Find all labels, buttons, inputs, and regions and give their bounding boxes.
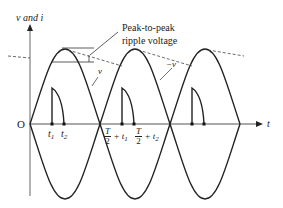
- t1-marker: [51, 123, 54, 126]
- origin-label: O: [17, 119, 25, 130]
- neg-v-leader-line: [160, 68, 172, 80]
- v-leader-line: [92, 77, 98, 86]
- t2-marker: [63, 123, 66, 126]
- ripple-label-line1: Peak-to-peak: [122, 23, 175, 33]
- rectifier-waveform-diagram: v and i O t Peak-to-peak ripple voltage …: [0, 0, 283, 208]
- t1-label: t1: [48, 129, 54, 141]
- y-axis-label: v and i: [16, 13, 43, 23]
- v-curve-label: v: [98, 67, 102, 76]
- neg-v-curve-label: −v: [166, 60, 176, 69]
- current-pulse-3: [192, 88, 204, 124]
- ripple-decay-dashed-1: [8, 56, 30, 58]
- t2-label: t2: [61, 129, 67, 141]
- current-pulse-1: [52, 88, 64, 124]
- half-t1-marker: [121, 123, 124, 126]
- half-period-t2-label: T2 + t2: [135, 127, 159, 146]
- x-axis-label: t: [267, 119, 270, 129]
- ripple-label-line2: ripple voltage: [122, 36, 177, 46]
- t1-marker-3: [191, 123, 194, 126]
- half-period-t1-label: T2 + t1: [104, 127, 128, 146]
- t2-marker-3: [203, 123, 206, 126]
- y-axis-arrow-icon: [27, 24, 33, 31]
- ripple-pointer-line: [90, 32, 118, 55]
- x-axis-arrow-icon: [256, 121, 263, 127]
- current-pulse-2: [122, 88, 134, 124]
